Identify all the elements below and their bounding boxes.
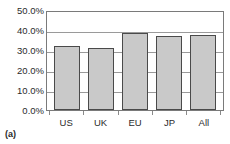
x-axis-label-eu: EU — [118, 116, 152, 130]
bar-uk — [88, 48, 114, 110]
bar-slot-jp — [152, 12, 186, 110]
x-axis-label-all: All — [187, 116, 221, 130]
x-axis-label-us: US — [49, 116, 83, 130]
y-axis-tick-label: 50.0% — [2, 6, 44, 16]
bar-eu — [122, 33, 148, 110]
bar-us — [54, 46, 80, 110]
bar-series — [47, 12, 223, 110]
x-axis-tick — [220, 111, 221, 115]
x-axis-tick — [49, 111, 50, 115]
y-axis-tick-label: 20.0% — [2, 66, 44, 76]
y-axis: 50.0% 40.0% 30.0% 20.0% 10.0% 0.0% — [0, 0, 44, 144]
x-axis-tick — [118, 111, 119, 115]
bar-slot-uk — [84, 12, 118, 110]
bar-slot-us — [50, 12, 84, 110]
x-axis-tick — [186, 111, 187, 115]
bar-slot-eu — [118, 12, 152, 110]
x-axis-tick — [83, 111, 84, 115]
y-axis-tick-label: 40.0% — [2, 26, 44, 36]
x-axis-tick — [152, 111, 153, 115]
x-axis-labels: US UK EU JP All — [46, 116, 224, 130]
x-axis-label-uk: UK — [83, 116, 117, 130]
bar-jp — [156, 36, 182, 110]
plot-area — [46, 11, 224, 111]
bar-all — [190, 35, 216, 110]
y-axis-tick-label: 0.0% — [2, 106, 44, 116]
y-axis-tick-label: 10.0% — [2, 86, 44, 96]
figure-caption: (a) — [5, 128, 16, 140]
y-axis-tick-label: 30.0% — [2, 46, 44, 56]
bar-slot-all — [186, 12, 220, 110]
x-axis-label-jp: JP — [152, 116, 186, 130]
bar-chart-figure: 50.0% 40.0% 30.0% 20.0% 10.0% 0.0% — [0, 0, 230, 144]
